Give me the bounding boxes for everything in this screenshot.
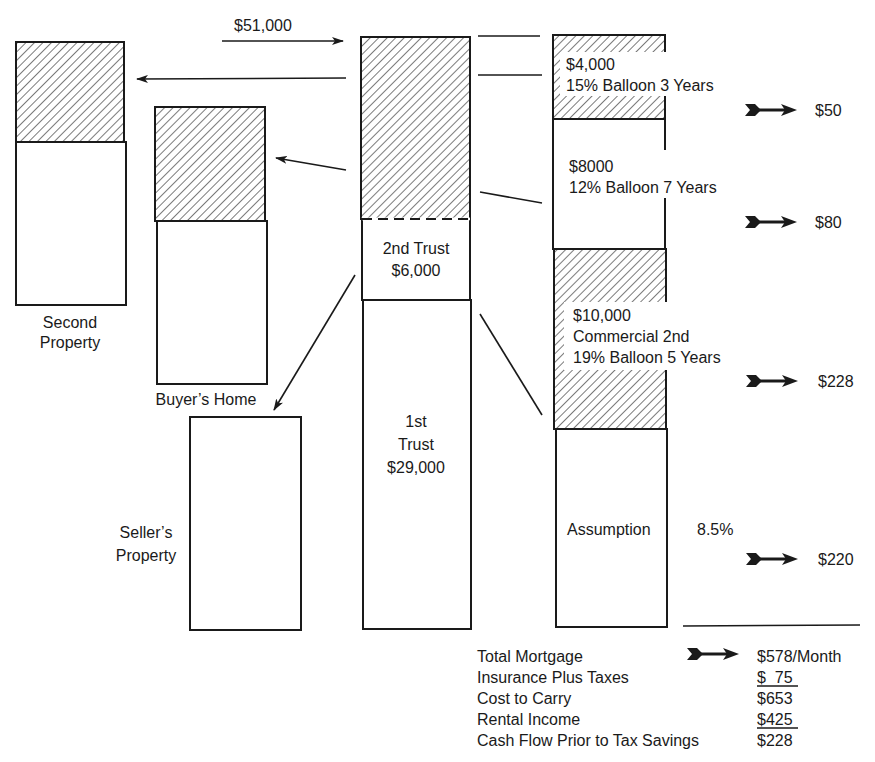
loan-4000-terms: 15% Balloon 3 Years [566, 77, 714, 94]
flow-amount-label: $51,000 [234, 17, 292, 34]
summary-value-total-mortgage: $578/Month [757, 648, 842, 665]
arrow-icon [687, 648, 739, 660]
summary-value-rental-income: $425 [757, 711, 793, 728]
loan-8000-terms: 12% Balloon 7 Years [569, 179, 717, 196]
arrow-icon [746, 553, 798, 565]
first-trust-label-2: Trust [398, 436, 434, 453]
flow-arrow-51000: $51,000 [222, 17, 343, 41]
payment-50-value: $50 [815, 102, 842, 119]
payment-220: $220 [746, 551, 854, 568]
payment-80-value: $80 [815, 214, 842, 231]
second-property-label-2: Property [40, 334, 100, 351]
total-separator [683, 625, 860, 626]
second-trust-amount: $6,000 [392, 262, 441, 279]
loan-8000-amount: $8000 [569, 158, 614, 175]
loan-10000-amount: $10,000 [573, 307, 631, 324]
assumption-rate: 8.5% [697, 521, 733, 538]
arrow-icon [746, 375, 798, 387]
payment-80: $80 [745, 214, 842, 231]
loan-4000-amount: $4,000 [566, 56, 615, 73]
payment-228-value: $228 [818, 373, 854, 390]
equity-segment [361, 37, 470, 219]
loan-segment [16, 142, 126, 305]
payment-50: $50 [745, 102, 842, 119]
second-property-label-1: Second [43, 314, 97, 331]
first-trust-amount: $29,000 [387, 459, 445, 476]
loan-10000-type: Commercial 2nd [573, 328, 689, 345]
equity-segment [16, 42, 124, 142]
sellers-property-label-1: Seller’s [120, 524, 173, 541]
payment-228: $228 [746, 373, 854, 390]
loan-segment [157, 221, 267, 384]
loan-10000-terms: 19% Balloon 5 Years [573, 349, 721, 366]
summary-label-cash-flow: Cash Flow Prior to Tax Savings [477, 732, 699, 749]
second-property-bar: Second Property [16, 42, 126, 351]
payment-220-value: $220 [818, 551, 854, 568]
summary-label-insurance: Insurance Plus Taxes [477, 669, 629, 686]
summary-table: Total Mortgage $578/Month Insurance Plus… [477, 648, 842, 749]
right-column: $4,000 15% Balloon 3 Years $8000 12% Bal… [553, 35, 746, 627]
second-trust-segment [362, 219, 470, 300]
summary-label-rental-income: Rental Income [477, 711, 580, 728]
sellers-property-bar: Seller’s Property [116, 417, 301, 630]
summary-label-cost-to-carry: Cost to Carry [477, 690, 571, 707]
sellers-property-label-2: Property [116, 547, 176, 564]
arrow-icon [745, 216, 797, 228]
equity-segment [155, 107, 265, 221]
financing-diagram: $51,000 Second Property Buyer’s Home Sel… [0, 0, 875, 762]
summary-label-total-mortgage: Total Mortgage [477, 648, 583, 665]
buyers-home-bar: Buyer’s Home [155, 107, 267, 408]
second-trust-label: 2nd Trust [383, 240, 450, 257]
summary-value-insurance: $ 75 [757, 669, 793, 686]
summary-value-cost-to-carry: $653 [757, 690, 793, 707]
arrow-left-icon [276, 158, 346, 170]
first-trust-label-1: 1st [405, 413, 427, 430]
assumption-label: Assumption [567, 521, 651, 538]
arrow-left-icon [137, 78, 346, 79]
arrow-icon [745, 104, 797, 116]
connector-lines [478, 36, 542, 415]
arrow-down-left-icon [274, 275, 355, 410]
property-box [190, 417, 301, 630]
center-column: 2nd Trust $6,000 1st Trust $29,000 [361, 37, 471, 629]
buyers-home-label: Buyer’s Home [156, 391, 257, 408]
summary-value-cash-flow: $228 [757, 732, 793, 749]
